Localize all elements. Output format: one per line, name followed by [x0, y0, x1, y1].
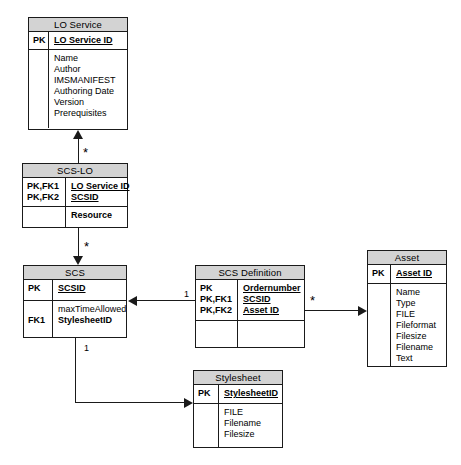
attribute-column: Ordernumber SCSID Asset ID [238, 280, 304, 320]
entity-lo-service[interactable]: LO Service PK LO Service ID Name Author … [28, 17, 128, 130]
attribute-label: Asset ID [396, 268, 443, 279]
cardinality-scs-definition-to-scs: 1 [184, 290, 189, 299]
key-column: FK1 [24, 301, 53, 337]
attribute-column: Name Author IMSMANIFEST Authoring Date V… [49, 50, 127, 128]
key-column: PK PK,FK1 PK,FK2 [196, 280, 238, 320]
entity-attr-section-scs-lo: Resource [23, 206, 127, 227]
attribute-column: maxTimeAllowed StylesheetID [53, 301, 129, 337]
key-label: PK,FK1 [200, 294, 235, 305]
attribute-column: Name Type FILE Fileformat Filesize Filen… [391, 284, 446, 367]
attribute-label: Version [54, 97, 124, 108]
attribute-label: Authoring Date [54, 86, 124, 97]
entity-title-lo-service: LO Service [29, 18, 127, 32]
attribute-label: FILE [396, 309, 443, 320]
entity-attr-section-asset: Name Type FILE Fileformat Filesize Filen… [368, 283, 446, 367]
attribute-label: FILE [224, 407, 279, 418]
attribute-label: Filesize [224, 429, 279, 440]
key-column: PK,FK1 PK,FK2 [23, 178, 66, 206]
attribute-label: Name [54, 53, 124, 64]
attribute-label: Name [396, 287, 443, 298]
entity-attr-section-scs: FK1 maxTimeAllowed StylesheetID [24, 300, 126, 337]
connector-scs-to-stylesheet-vertical [75, 338, 76, 403]
entity-key-section-asset: PK Asset ID [368, 265, 446, 283]
attribute-label: Filename [224, 418, 279, 429]
attribute-label: SCSID [71, 192, 130, 203]
key-label: PK,FK2 [200, 305, 235, 316]
arrowhead-right-stylesheet [184, 398, 193, 408]
entity-title-scs-definition: SCS Definition [196, 266, 304, 280]
attribute-label: Prerequisites [54, 108, 124, 119]
entity-attr-section-stylesheet: FILE Filename Filesize [194, 403, 282, 447]
key-column [196, 321, 238, 347]
key-column [29, 50, 49, 128]
key-column [194, 404, 219, 447]
attribute-column: LO Service ID SCSID [66, 178, 133, 206]
cardinality-scs-to-stylesheet: 1 [84, 344, 89, 353]
connector-scs-lo-to-lo-service [78, 139, 79, 163]
key-column: PK [368, 265, 391, 283]
entity-stylesheet[interactable]: Stylesheet PK StylesheetID FILE Filename… [193, 370, 283, 448]
er-diagram-canvas: LO Service PK LO Service ID Name Author … [0, 0, 461, 465]
connector-scs-lo-to-scs [78, 228, 79, 256]
attribute-label: Text [396, 353, 443, 364]
attribute-column: Asset ID [391, 265, 446, 283]
attribute-label: Type [396, 298, 443, 309]
attribute-label: LO Service ID [54, 35, 124, 46]
attribute-label: Fileformat [396, 320, 443, 331]
key-column: PK [29, 32, 49, 49]
key-column: PK [194, 385, 219, 403]
attribute-label: SCSID [58, 283, 123, 294]
entity-scs-definition[interactable]: SCS Definition PK PK,FK1 PK,FK2 Ordernum… [195, 265, 305, 348]
attribute-label: Resource [71, 210, 124, 221]
attribute-column: LO Service ID [49, 32, 127, 49]
entity-key-section-scs-definition: PK PK,FK1 PK,FK2 Ordernumber SCSID Asset… [196, 280, 304, 320]
cardinality-scs-lo-to-scs: * [84, 242, 89, 251]
attribute-label: maxTimeAllowed [58, 304, 126, 315]
arrowhead-down-scs [73, 256, 83, 265]
entity-title-scs-lo: SCS-LO [23, 164, 127, 178]
entity-scs[interactable]: SCS PK SCSID FK1 maxTimeAllowed Styleshe… [23, 265, 127, 338]
attribute-label: StylesheetID [224, 388, 279, 399]
attribute-label: Asset ID [243, 305, 301, 316]
attribute-label: LO Service ID [71, 181, 130, 192]
attribute-label: IMSMANIFEST [54, 75, 124, 86]
entity-title-asset: Asset [368, 251, 446, 265]
attribute-column: StylesheetID [219, 385, 282, 403]
attribute-column: Resource [66, 207, 127, 227]
key-label: PK,FK1 [27, 181, 63, 192]
attribute-label: StylesheetID [58, 315, 126, 326]
attribute-label: Ordernumber [243, 283, 301, 294]
attribute-column [238, 321, 304, 347]
entity-title-stylesheet: Stylesheet [194, 371, 282, 385]
entity-title-scs: SCS [24, 266, 126, 280]
attribute-label: Filename [396, 342, 443, 353]
key-label: PK [28, 283, 50, 294]
key-label: PK [33, 35, 46, 46]
arrowhead-right-asset [358, 306, 367, 316]
key-column [368, 284, 391, 367]
attribute-column: FILE Filename Filesize [219, 404, 282, 447]
entity-key-section-stylesheet: PK StylesheetID [194, 385, 282, 403]
connector-scs-definition-to-scs [137, 300, 195, 301]
entity-key-section-scs-lo: PK,FK1 PK,FK2 LO Service ID SCSID [23, 178, 127, 206]
key-label: PK [200, 283, 235, 294]
arrowhead-left-scs [128, 296, 137, 306]
arrowhead-up-lo-service [73, 130, 83, 139]
attribute-label: Filesize [396, 331, 443, 342]
connector-scs-to-stylesheet-horizontal [75, 402, 184, 403]
entity-key-section-lo-service: PK LO Service ID [29, 32, 127, 49]
attribute-column: SCSID [53, 280, 126, 300]
entity-key-section-scs: PK SCSID [24, 280, 126, 300]
key-column: PK [24, 280, 53, 300]
connector-scs-definition-to-asset [305, 310, 358, 311]
entity-scs-lo[interactable]: SCS-LO PK,FK1 PK,FK2 LO Service ID SCSID… [22, 163, 128, 228]
attribute-label: SCSID [243, 294, 301, 305]
attribute-label: Author [54, 64, 124, 75]
entity-attr-section-scs-definition [196, 320, 304, 347]
cardinality-scs-lo-to-lo-service: * [83, 148, 88, 157]
key-column [23, 207, 66, 227]
entity-asset[interactable]: Asset PK Asset ID Name Type FILE Filefor… [367, 250, 447, 367]
key-label: PK [198, 388, 216, 399]
key-label: PK,FK2 [27, 192, 63, 203]
key-label: FK1 [28, 315, 50, 326]
